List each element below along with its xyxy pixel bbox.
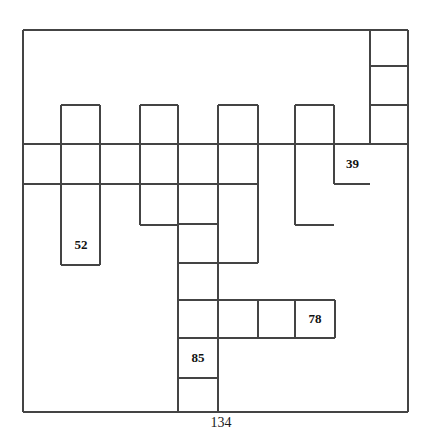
label-39: 39 (334, 144, 371, 184)
label-78: 78 (295, 300, 335, 338)
label-52: 52 (61, 225, 101, 265)
label-85: 85 (178, 338, 218, 378)
grid-diagram-figure: 52 39 78 85 134 (0, 0, 431, 443)
bottom-label-134: 134 (200, 415, 242, 431)
